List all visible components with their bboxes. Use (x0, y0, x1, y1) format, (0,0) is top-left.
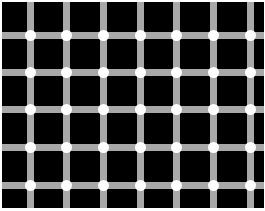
intersection-dot (135, 67, 146, 78)
intersection-dot (25, 104, 36, 115)
intersection-dot (208, 67, 219, 78)
horizontal-bar (2, 32, 264, 39)
horizontal-bar (2, 182, 264, 189)
intersection-dot (171, 67, 182, 78)
intersection-dot (61, 30, 72, 41)
intersection-dot (61, 180, 72, 191)
intersection-dot (98, 142, 109, 153)
intersection-dot (25, 30, 36, 41)
horizontal-bar (2, 69, 264, 76)
intersection-dot (98, 67, 109, 78)
intersection-dot (61, 142, 72, 153)
intersection-dot (25, 142, 36, 153)
intersection-dot (25, 180, 36, 191)
intersection-dot (98, 30, 109, 41)
intersection-dot (135, 180, 146, 191)
intersection-dot (61, 67, 72, 78)
intersection-dot (98, 180, 109, 191)
intersection-dot (245, 67, 256, 78)
intersection-dot (135, 104, 146, 115)
intersection-dot (135, 142, 146, 153)
intersection-dot (135, 30, 146, 41)
intersection-dot (171, 142, 182, 153)
scintillating-grid (2, 2, 264, 208)
intersection-dot (245, 142, 256, 153)
intersection-dot (171, 104, 182, 115)
intersection-dot (245, 30, 256, 41)
intersection-dot (208, 142, 219, 153)
intersection-dot (61, 104, 72, 115)
horizontal-bar (2, 144, 264, 151)
intersection-dot (171, 30, 182, 41)
intersection-dot (245, 180, 256, 191)
intersection-dot (208, 104, 219, 115)
intersection-dot (25, 67, 36, 78)
intersection-dot (208, 30, 219, 41)
horizontal-bar (2, 106, 264, 113)
intersection-dot (171, 180, 182, 191)
intersection-dot (98, 104, 109, 115)
intersection-dot (245, 104, 256, 115)
intersection-dot (208, 180, 219, 191)
